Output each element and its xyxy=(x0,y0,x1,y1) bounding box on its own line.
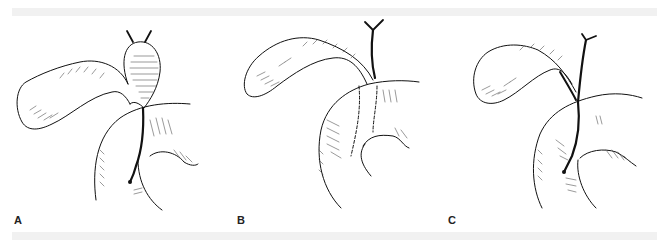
panel-b-illustration xyxy=(223,0,446,244)
panel-a: A xyxy=(0,0,223,244)
panel-b: B xyxy=(223,0,446,244)
bottom-border-band xyxy=(12,232,657,240)
panel-label-b: B xyxy=(237,214,245,226)
panel-label-a: A xyxy=(14,214,22,226)
panel-label-c: C xyxy=(448,214,456,226)
panel-c: C xyxy=(446,0,669,244)
panel-c-illustration xyxy=(446,0,669,244)
panel-a-illustration xyxy=(0,0,223,244)
